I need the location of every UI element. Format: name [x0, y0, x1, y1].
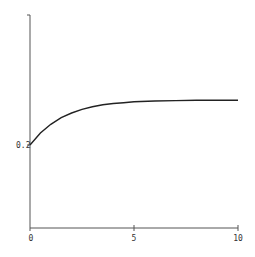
chart: 0.2 0 5 10: [0, 0, 255, 257]
data-line: [30, 100, 238, 145]
y-axis: [27, 15, 30, 228]
x-tick-label: 10: [233, 234, 243, 243]
x-tick-label: 0: [29, 234, 34, 243]
x-tick-label: 5: [132, 234, 137, 243]
x-axis: [30, 225, 238, 231]
y-tick-label: 0.2: [16, 141, 31, 150]
